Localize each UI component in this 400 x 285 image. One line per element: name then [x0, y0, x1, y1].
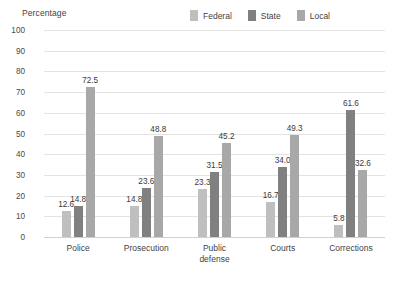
bar-value-label: 49.3 [287, 124, 303, 133]
bar-rect [290, 135, 299, 237]
y-axis-title: Percentage [22, 8, 66, 18]
bar-federal[interactable]: 16.7 [266, 30, 275, 237]
category-label: Courts [249, 243, 317, 265]
category-label: Corrections [317, 243, 385, 265]
bar-value-label: 14.8 [70, 195, 86, 204]
bar-value-label: 16.7 [263, 191, 279, 200]
y-axis-tick-label: 10 [0, 212, 25, 221]
bar-local[interactable]: 72.5 [86, 30, 95, 237]
bar-value-label: 14.8 [126, 195, 142, 204]
category-label-line: Courts [249, 243, 317, 254]
category-label-line: Prosecution [112, 243, 180, 254]
bar-rect [334, 225, 343, 237]
bar-rect [358, 170, 367, 237]
bar-state[interactable]: 34.0 [278, 30, 287, 237]
bar-group: 16.734.049.3 [249, 30, 317, 237]
bar-local[interactable]: 32.6 [358, 30, 367, 237]
y-axis-tick-label: 40 [0, 150, 25, 159]
chart-legend: FederalStateLocal [190, 10, 330, 21]
bar-rect [222, 143, 231, 237]
y-axis-tick-label: 50 [0, 129, 25, 138]
bar-groups: 12.614.872.514.823.648.823.331.545.216.7… [44, 30, 385, 237]
bar-rect [130, 206, 139, 237]
category-label: Publicdefense [180, 243, 248, 265]
bar-rect [86, 87, 95, 237]
y-axis-tick-label: 60 [0, 108, 25, 117]
bar-group: 5.861.632.6 [317, 30, 385, 237]
bar-value-label: 45.2 [219, 132, 235, 141]
category-label-line: Corrections [317, 243, 385, 254]
bar-federal[interactable]: 23.3 [198, 30, 207, 237]
plot-area: 1009080706050403020100 12.614.872.514.82… [44, 30, 385, 237]
legend-swatch-icon [248, 10, 256, 21]
legend-entry-local[interactable]: Local [297, 10, 330, 21]
x-axis-categories: PoliceProsecutionPublicdefenseCourtsCorr… [44, 243, 385, 265]
y-axis-tick-label: 70 [0, 88, 25, 97]
bar-rect [62, 211, 71, 237]
bar-federal[interactable]: 12.6 [62, 30, 71, 237]
bar-value-label: 5.8 [333, 214, 344, 223]
bar-rect [74, 206, 83, 237]
legend-label: State [261, 11, 281, 21]
bar-rect [266, 202, 275, 237]
y-axis-tick-label: 0 [0, 233, 25, 242]
category-label: Prosecution [112, 243, 180, 265]
legend-label: Federal [203, 11, 232, 21]
legend-swatch-icon [297, 10, 305, 21]
y-axis-tick-label: 90 [0, 46, 25, 55]
bar-local[interactable]: 45.2 [222, 30, 231, 237]
bar-rect [346, 110, 355, 238]
bar-value-label: 34.0 [275, 156, 291, 165]
y-axis-tick-label: 20 [0, 191, 25, 200]
category-label-line: Police [44, 243, 112, 254]
bar-rect [142, 188, 151, 237]
legend-swatch-icon [190, 10, 198, 21]
bar-chart: Percentage FederalStateLocal 10090807060… [0, 0, 400, 285]
y-axis-tick-label: 100 [0, 26, 25, 35]
bar-value-label: 72.5 [82, 76, 98, 85]
category-label: Police [44, 243, 112, 265]
legend-entry-state[interactable]: State [248, 10, 281, 21]
bar-value-label: 31.5 [207, 161, 223, 170]
bar-local[interactable]: 49.3 [290, 30, 299, 237]
legend-entry-federal[interactable]: Federal [190, 10, 232, 21]
gridline [44, 237, 385, 238]
bar-federal[interactable]: 14.8 [130, 30, 139, 237]
bar-value-label: 23.6 [138, 177, 154, 186]
bar-federal[interactable]: 5.8 [334, 30, 343, 237]
category-label-line: Public [180, 243, 248, 254]
bar-value-label: 48.8 [150, 125, 166, 134]
bar-local[interactable]: 48.8 [154, 30, 163, 237]
bar-value-label: 32.6 [355, 159, 371, 168]
bar-rect [210, 172, 219, 237]
bar-group: 12.614.872.5 [44, 30, 112, 237]
bar-value-label: 23.3 [195, 178, 211, 187]
category-label-line: defense [180, 254, 248, 265]
bar-group: 23.331.545.2 [180, 30, 248, 237]
y-axis-tick-label: 80 [0, 67, 25, 76]
legend-label: Local [310, 11, 330, 21]
bar-rect [198, 189, 207, 237]
bar-group: 14.823.648.8 [112, 30, 180, 237]
y-axis-tick-label: 30 [0, 170, 25, 179]
bar-rect [278, 167, 287, 237]
bar-value-label: 61.6 [343, 99, 359, 108]
bar-rect [154, 136, 163, 237]
bar-state[interactable]: 61.6 [346, 30, 355, 237]
bar-state[interactable]: 14.8 [74, 30, 83, 237]
